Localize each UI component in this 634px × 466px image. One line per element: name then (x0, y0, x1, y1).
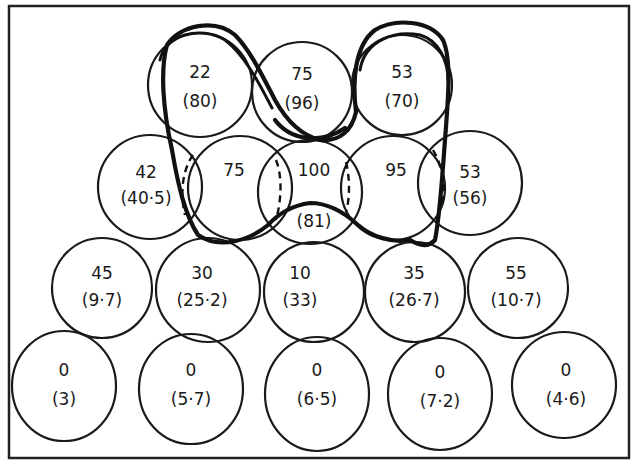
cell-paren-value: (80) (183, 91, 218, 111)
cell-r4-c5: 0 (4·6) (512, 332, 616, 438)
cell-r4-c4: 0 (7·2) (388, 338, 492, 450)
cell-circle (512, 332, 616, 438)
cell-circle (98, 135, 202, 239)
cell-r3-c4: 35 (26·7) (365, 242, 465, 342)
cell-paren-value: (96) (285, 93, 320, 113)
cell-value: 0 (59, 360, 70, 380)
cell-value: 30 (191, 263, 213, 283)
cell-paren-value: (33) (283, 290, 318, 310)
cell-paren-value: (10·7) (490, 290, 541, 310)
cell-r2-c3: 100 (81) (258, 140, 362, 244)
cell-value: 0 (312, 360, 323, 380)
row-3: 45 (9·7) 30 (25·2) 10 (33) 35 (26·7) 55 … (52, 238, 568, 342)
cell-value: 95 (385, 160, 407, 180)
cell-circle (52, 238, 152, 338)
cell-paren-value: (6·5) (297, 389, 337, 409)
cell-value: 10 (289, 263, 311, 283)
cell-paren-value: (25·2) (176, 290, 227, 310)
cell-value: 75 (291, 64, 313, 84)
cell-paren-value: (4·6) (546, 389, 586, 409)
cell-paren-value: (81) (297, 211, 332, 231)
cell-r1-c2: 75 (96) (252, 42, 352, 142)
contour-right-lobe (354, 23, 448, 245)
circle-grid-diagram: 22 (80) 75 (96) 53 (70) 42 (40·5) 75 100 (0, 0, 634, 466)
cell-value: 0 (435, 362, 446, 382)
row-4: 0 (3) 0 (5·7) 0 (6·5) 0 (7·2) 0 (4·6) (12, 331, 616, 451)
cell-paren-value: (56) (453, 188, 488, 208)
cell-paren-value: (26·7) (388, 290, 439, 310)
cell-r3-c1: 45 (9·7) (52, 238, 152, 338)
cell-circle (468, 238, 568, 338)
cell-paren-value: (40·5) (120, 188, 171, 208)
cell-r4-c2: 0 (5·7) (139, 334, 243, 444)
cell-value: 53 (391, 62, 413, 82)
cell-value: 0 (186, 360, 197, 380)
cell-r3-c2: 30 (25·2) (156, 238, 260, 342)
cell-circle (12, 331, 116, 441)
row-1: 22 (80) 75 (96) 53 (70) (148, 33, 452, 142)
cell-circle (252, 42, 352, 142)
cell-value: 42 (135, 162, 157, 182)
cell-value: 22 (189, 62, 211, 82)
dashed-arc-center-right (346, 162, 349, 212)
cell-circle (418, 131, 522, 235)
cell-value: 75 (223, 160, 245, 180)
cell-value: 0 (561, 360, 572, 380)
cell-paren-value: (70) (385, 91, 420, 111)
cell-value: 45 (91, 263, 113, 283)
cell-r2-c1: 42 (40·5) (98, 135, 202, 239)
cell-value: 53 (459, 162, 481, 182)
cell-paren-value: (5·7) (171, 389, 211, 409)
row-2: 42 (40·5) 75 100 (81) 95 53 (56) (98, 131, 522, 244)
cell-value: 55 (505, 263, 527, 283)
cell-r4-c3: 0 (6·5) (265, 337, 369, 451)
cell-value: 100 (298, 160, 330, 180)
cell-r2-c5: 53 (56) (418, 131, 522, 235)
dashed-arc-center-left (276, 160, 281, 220)
cell-r3-c5: 55 (10·7) (468, 238, 568, 338)
cell-value: 35 (403, 263, 425, 283)
cell-r4-c1: 0 (3) (12, 331, 116, 441)
cell-paren-value: (9·7) (82, 290, 122, 310)
cell-paren-value: (3) (52, 389, 76, 409)
cell-r3-c3: 10 (33) (264, 242, 364, 342)
cell-paren-value: (7·2) (420, 391, 460, 411)
contour-left-lobe (163, 25, 410, 242)
